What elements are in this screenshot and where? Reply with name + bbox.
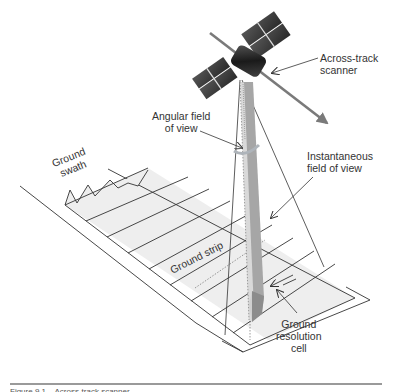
figure-caption: Figure 9.1 – Across-track scanner xyxy=(10,387,130,392)
label-across-track-scanner: Across-track scanner xyxy=(320,52,378,76)
diagram: Across-track scanner Angular field of vi… xyxy=(0,0,394,392)
label-ground-resolution-cell: Ground resolution cell xyxy=(276,318,322,354)
label-angular-fov: Angular field of view xyxy=(152,110,210,134)
label-instantaneous-fov: Instantaneous field of view xyxy=(307,150,373,174)
caption-divider xyxy=(10,383,382,385)
